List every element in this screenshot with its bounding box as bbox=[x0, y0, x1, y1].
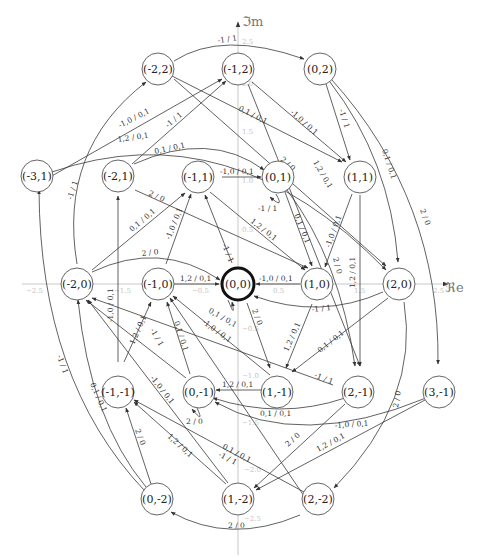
edge-label: 0,1 / 0,1 bbox=[260, 409, 291, 418]
edge-label: 0,1 / 0,1 bbox=[237, 104, 269, 126]
state-node[interactable]: (2,-1) bbox=[342, 376, 374, 408]
svg-text:(2,0): (2,0) bbox=[386, 278, 412, 291]
edge-label: 2 / 0 bbox=[331, 256, 344, 275]
edge-label: 0,1 / 0,1 bbox=[154, 141, 186, 156]
x-tick: −2.5 bbox=[26, 287, 43, 295]
edge-label: 2 / 0 bbox=[391, 390, 403, 408]
state-node[interactable]: (-2,0) bbox=[61, 268, 93, 300]
edge-label: 0,1 / 0,1 bbox=[316, 328, 346, 354]
edge-label: 1,2 / 0,1 bbox=[180, 274, 211, 283]
edge bbox=[126, 408, 151, 484]
edge-label: 2 / 0 bbox=[418, 208, 432, 227]
edge-label: -1 / 1 bbox=[311, 303, 331, 314]
y-tick: 2.5 bbox=[242, 38, 253, 46]
state-node[interactable]: (-1,0) bbox=[142, 268, 174, 300]
edge-label: 1,2 / 0,1 bbox=[282, 321, 303, 353]
edge-label: 2 / 0 bbox=[228, 521, 245, 530]
x-tick: 0.5 bbox=[273, 287, 284, 295]
svg-text:(2,-1): (2,-1) bbox=[343, 386, 373, 399]
state-node[interactable]: (1,-1) bbox=[261, 376, 293, 408]
edge-label: -1 / 1 bbox=[258, 204, 277, 213]
imag-axis-label: ℑm bbox=[242, 14, 263, 29]
state-node[interactable]: (-3,1) bbox=[21, 160, 53, 192]
y-tick: −2.5 bbox=[244, 515, 261, 523]
edge-label: -1,0 / 0,1 bbox=[259, 274, 293, 283]
state-node[interactable]: (0,2) bbox=[304, 53, 336, 85]
svg-text:(0,2): (0,2) bbox=[307, 63, 333, 76]
svg-text:(-3,1): (-3,1) bbox=[22, 170, 52, 183]
svg-text:(-2,1): (-2,1) bbox=[103, 170, 133, 183]
edge-label: -1,0 / 0,1 bbox=[289, 108, 320, 137]
edge bbox=[86, 300, 186, 378]
state-node[interactable]: (-2,1) bbox=[102, 160, 134, 192]
edge-label: 2 / 0 bbox=[147, 189, 166, 204]
real-axis-label: ℜe bbox=[445, 280, 464, 295]
edge bbox=[192, 408, 200, 417]
svg-text:(1,1): (1,1) bbox=[347, 171, 373, 184]
svg-text:(-1,1): (-1,1) bbox=[183, 171, 213, 184]
svg-text:(0,-1): (0,-1) bbox=[184, 386, 214, 399]
svg-text:(0,-2): (0,-2) bbox=[142, 493, 172, 506]
edge-label: -1,0 / 0,1 bbox=[117, 106, 151, 129]
edge-label: -1 / 1 bbox=[220, 242, 236, 263]
edge-label: -1 / 1 bbox=[217, 33, 237, 45]
x-tick: −0.5 bbox=[192, 287, 209, 295]
y-tick: 1.5 bbox=[242, 128, 253, 136]
transducer-graph: ℜe ℑm −2.5 −2.0 −1.5 −1.0 −0.5 0.5 1.0 1… bbox=[0, 0, 477, 558]
edge-label: 2 / 0 bbox=[141, 247, 159, 258]
state-node[interactable]: (1,1) bbox=[344, 161, 376, 193]
edge bbox=[228, 300, 233, 311]
svg-text:(2,-2): (2,-2) bbox=[303, 493, 333, 506]
state-node[interactable]: (1,-2) bbox=[222, 483, 254, 515]
svg-text:(1,0): (1,0) bbox=[304, 278, 330, 291]
edge-label: -1 / 1 bbox=[313, 371, 334, 387]
state-node[interactable]: (0,-1) bbox=[183, 376, 215, 408]
svg-text:(1,-1): (1,-1) bbox=[262, 386, 292, 399]
edge-label: 1,2 / 0,1 bbox=[311, 159, 334, 190]
edge-label: 1,2 / 0,1 bbox=[348, 257, 357, 288]
edge-label: 1,2 / 0,1 bbox=[166, 432, 195, 460]
y-tick: 1.0 bbox=[242, 177, 253, 185]
svg-text:(-1,-1): (-1,-1) bbox=[101, 386, 135, 399]
edge-label: -1 / 1 bbox=[55, 354, 70, 375]
edge-label: 0,1 / 0,1 bbox=[292, 212, 312, 244]
edge-label: -1 / 1 bbox=[148, 327, 165, 348]
svg-text:(-1,2): (-1,2) bbox=[223, 63, 253, 76]
x-tick: −1.5 bbox=[114, 287, 131, 295]
svg-text:(-2,2): (-2,2) bbox=[143, 63, 173, 76]
initial-state-node[interactable]: (0,0) bbox=[222, 268, 254, 300]
state-node[interactable]: (1,0) bbox=[301, 268, 333, 300]
edge-label: -1,0 / 0,1 bbox=[148, 374, 176, 406]
edge-label: -1 / 1 bbox=[65, 179, 80, 200]
edge-label: 0,1 / 0,1 bbox=[172, 320, 190, 352]
state-node[interactable]: (-1,-1) bbox=[101, 376, 135, 408]
edge-label: -1,0 / 0,1 bbox=[164, 206, 185, 241]
svg-text:(0,0): (0,0) bbox=[225, 278, 251, 291]
state-node[interactable]: (0,-2) bbox=[141, 483, 173, 515]
edge-label: -1,0 / 0,1 bbox=[220, 167, 254, 176]
edge-label: -1,0 / 0,1 bbox=[323, 214, 343, 249]
edge-label: -1,0 / 0,1 bbox=[335, 419, 369, 430]
y-tick: 0.5 bbox=[242, 226, 253, 234]
edge-label: 1,2 / 0,1 bbox=[117, 131, 149, 144]
svg-text:(-1,0): (-1,0) bbox=[143, 278, 173, 291]
edge bbox=[270, 194, 279, 203]
edge-label: 0,1 / 0,1 bbox=[380, 148, 398, 180]
state-node[interactable]: (-1,1) bbox=[182, 161, 214, 193]
svg-text:(3,-1): (3,-1) bbox=[424, 386, 454, 399]
svg-text:(-2,0): (-2,0) bbox=[62, 278, 92, 291]
state-node[interactable]: (2,0) bbox=[383, 268, 415, 300]
state-node[interactable]: (2,-2) bbox=[302, 483, 334, 515]
state-node[interactable]: (-1,2) bbox=[222, 53, 254, 85]
y-tick: −1.0 bbox=[242, 372, 259, 380]
edge-label: 2 / 0 bbox=[186, 417, 203, 426]
edge-label: 1,2 / 0,1 bbox=[249, 216, 279, 242]
svg-text:(1,-2): (1,-2) bbox=[223, 493, 253, 506]
state-node[interactable]: (0,1) bbox=[262, 161, 294, 193]
x-tick: 2.5 bbox=[433, 287, 444, 295]
svg-text:(0,1): (0,1) bbox=[265, 171, 291, 184]
state-node[interactable]: (3,-1) bbox=[423, 376, 455, 408]
state-node[interactable]: (-2,2) bbox=[142, 53, 174, 85]
